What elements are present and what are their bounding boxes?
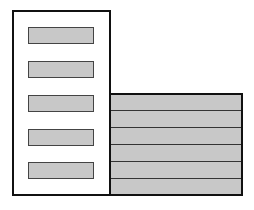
left-panel [12, 10, 111, 196]
bar-1 [28, 27, 94, 44]
bar-4 [28, 129, 94, 146]
stripe-divider-2 [111, 127, 241, 128]
bar-2 [28, 61, 94, 78]
bar-3 [28, 95, 94, 112]
stripe-divider-3 [111, 144, 241, 145]
bar-5 [28, 162, 94, 179]
right-striped-panel [109, 93, 243, 196]
stripe-divider-5 [111, 178, 241, 179]
stripe-divider-4 [111, 161, 241, 162]
stripe-divider-1 [111, 110, 241, 111]
